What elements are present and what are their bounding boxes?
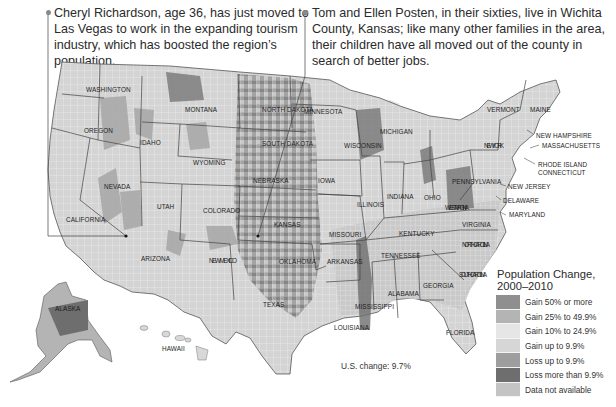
legend: Population Change, 2000–2010 Gain 50% or… (496, 268, 614, 397)
legend-swatch (496, 339, 520, 354)
svg-text:WASHINGTON: WASHINGTON (86, 86, 131, 93)
svg-text:UTAH: UTAH (157, 203, 175, 210)
svg-text:FLORIDA: FLORIDA (446, 329, 475, 336)
svg-text:WEST VIRGINIA: WEST VIRGINIA (445, 204, 470, 211)
legend-label: Loss more than 9.9% (525, 370, 603, 380)
legend-item: Gain 25% to 49.9% (496, 310, 614, 325)
legend-swatch (496, 310, 520, 325)
svg-text:MARYLAND: MARYLAND (509, 211, 545, 218)
svg-text:ILLINOIS: ILLINOIS (357, 201, 384, 208)
svg-text:CALIFORNIA: CALIFORNIA (66, 216, 106, 223)
svg-text:MINNESOTA: MINNESOTA (304, 108, 343, 115)
legend-label: Gain 50% or more (525, 297, 592, 307)
svg-text:IOWA: IOWA (318, 177, 336, 184)
svg-text:HAWAII: HAWAII (162, 345, 185, 352)
legend-swatch (496, 368, 520, 383)
legend-item: Gain up to 9.9% (496, 339, 614, 354)
svg-text:NORTH CAROLINA: NORTH CAROLINA (462, 241, 491, 248)
svg-text:IDAHO: IDAHO (140, 139, 161, 146)
legend-item: Gain 50% or more (496, 295, 614, 310)
legend-title: Population Change, 2000–2010 (497, 268, 614, 292)
svg-text:CONNECTICUT: CONNECTICUT (538, 169, 586, 176)
svg-text:RHODE ISLAND: RHODE ISLAND (538, 161, 587, 168)
legend-item: Loss more than 9.9% (496, 368, 614, 383)
svg-text:MASSACHUSETTS: MASSACHUSETTS (542, 142, 600, 149)
legend-label: Data not available (525, 385, 591, 395)
svg-text:VIRGINIA: VIRGINIA (462, 221, 491, 228)
legend-swatch (496, 324, 520, 339)
svg-text:INDIANA: INDIANA (387, 193, 414, 200)
svg-text:NEW HAMPSHIRE: NEW HAMPSHIRE (536, 132, 592, 139)
svg-text:WISCONSIN: WISCONSIN (344, 142, 382, 149)
svg-text:OREGON: OREGON (84, 127, 113, 134)
svg-text:MONTANA: MONTANA (185, 106, 218, 113)
svg-text:NEW JERSEY: NEW JERSEY (508, 183, 551, 190)
svg-text:TEXAS: TEXAS (263, 301, 284, 308)
wichita-county-marker-icon (256, 234, 259, 237)
legend-item: Gain 10% to 24.9% (496, 324, 614, 339)
svg-text:WYOMING: WYOMING (193, 159, 226, 166)
legend-swatch (496, 383, 520, 398)
svg-text:MICHIGAN: MICHIGAN (380, 128, 413, 135)
svg-text:COLORADO: COLORADO (203, 207, 240, 214)
legend-item: Data not available (496, 383, 614, 398)
legend-label: Gain up to 9.9% (525, 341, 585, 351)
las-vegas-marker-icon (124, 234, 127, 237)
svg-text:MAINE: MAINE (530, 106, 551, 113)
svg-text:ARIZONA: ARIZONA (141, 255, 171, 262)
svg-text:OKLAHOMA: OKLAHOMA (279, 258, 317, 265)
legend-swatch (496, 353, 520, 368)
svg-text:KENTUCKY: KENTUCKY (399, 230, 435, 237)
legend-item: Loss up to 9.9% (496, 353, 614, 368)
svg-text:NEW YORK: NEW YORK (484, 142, 505, 149)
legend-label: Gain 10% to 24.9% (525, 326, 597, 336)
svg-text:OHIO: OHIO (424, 194, 441, 201)
legend-label: Loss up to 9.9% (525, 356, 585, 366)
svg-text:TENNESSEE: TENNESSEE (381, 252, 421, 259)
svg-text:KANSAS: KANSAS (274, 221, 301, 228)
us-change-label: U.S. change: 9.7% (341, 361, 411, 371)
svg-text:ALASKA: ALASKA (55, 305, 81, 312)
svg-text:MISSOURI: MISSOURI (329, 231, 362, 238)
legend-swatch (496, 295, 520, 310)
legend-label: Gain 25% to 49.9% (525, 312, 597, 322)
svg-text:VERMONT: VERMONT (487, 106, 520, 113)
svg-text:MISSISSIPPI: MISSISSIPPI (355, 303, 394, 310)
svg-text:DELAWARE: DELAWARE (503, 197, 539, 204)
svg-text:SOUTH CAROLINA: SOUTH CAROLINA (459, 271, 488, 278)
svg-text:ALABAMA: ALABAMA (388, 290, 420, 297)
svg-text:GEORGIA: GEORGIA (423, 282, 454, 289)
svg-text:LOUISIANA: LOUISIANA (334, 324, 370, 331)
svg-text:SOUTH DAKOTA: SOUTH DAKOTA (262, 140, 314, 147)
svg-text:ARKANSAS: ARKANSAS (327, 258, 363, 265)
svg-text:PENNSYLVANIA: PENNSYLVANIA (452, 178, 502, 185)
hawaii-islands (140, 326, 208, 360)
svg-text:NEVADA: NEVADA (104, 183, 131, 190)
svg-text:NEBRASKA: NEBRASKA (253, 177, 289, 184)
svg-text:NEW MEXICO: NEW MEXICO (209, 257, 237, 264)
